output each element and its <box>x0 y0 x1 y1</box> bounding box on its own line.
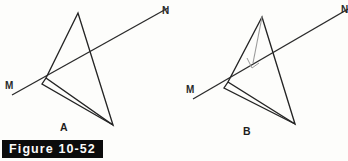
altitude-segment-b <box>253 17 262 63</box>
line-mn-b <box>193 9 348 99</box>
quadrilateral-a <box>46 13 113 125</box>
panel-b: M N B <box>186 4 348 137</box>
panel-a: M N A <box>5 5 169 133</box>
figure-caption-text: Figure 10-52 <box>9 142 96 156</box>
line-mn-a <box>12 8 168 95</box>
label-n-b: N <box>341 4 348 15</box>
panel-label-b: B <box>243 125 251 137</box>
geometry-diagram: M N A M N B <box>0 0 348 161</box>
figure-10-52: M N A M N B Figure 10-52 <box>0 0 348 161</box>
label-m-b: M <box>186 84 194 95</box>
panel-label-a: A <box>60 121 68 133</box>
label-n-a: N <box>162 5 169 16</box>
figure-caption-bar: Figure 10-52 <box>2 140 103 158</box>
quadrilateral-b <box>228 17 295 124</box>
label-m-a: M <box>5 80 13 91</box>
